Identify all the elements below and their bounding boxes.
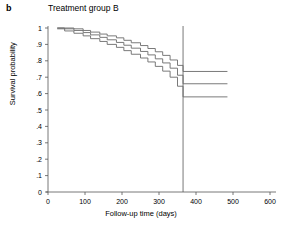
y-tick-label: .6 bbox=[36, 90, 42, 97]
y-tick-label: .4 bbox=[36, 123, 42, 130]
x-tick-label: 200 bbox=[116, 198, 128, 205]
y-tick-label: .3 bbox=[36, 139, 42, 146]
y-tick-label: .2 bbox=[36, 156, 42, 163]
survival-curve-line bbox=[57, 28, 227, 84]
survival-curve-figure: b Treatment group B Survival probability… bbox=[0, 0, 282, 228]
y-tick-label: .1 bbox=[36, 172, 42, 179]
y-tick-label: .9 bbox=[36, 41, 42, 48]
survival-curves bbox=[57, 28, 227, 97]
plot-area: 0.1.2.3.4.5.6.7.8.91 0100200300400500600 bbox=[0, 0, 282, 228]
survival-curve-line bbox=[57, 29, 227, 97]
x-tick-label: 400 bbox=[190, 198, 202, 205]
x-tick-label: 300 bbox=[153, 198, 165, 205]
y-tick-label: .8 bbox=[36, 57, 42, 64]
x-tick-label: 600 bbox=[264, 198, 276, 205]
y-tick-label: .5 bbox=[36, 107, 42, 114]
x-axis-ticks: 0100200300400500600 bbox=[46, 192, 276, 205]
y-tick-label: 1 bbox=[38, 25, 42, 32]
x-tick-label: 500 bbox=[227, 198, 239, 205]
y-tick-label: .7 bbox=[36, 74, 42, 81]
x-tick-label: 100 bbox=[79, 198, 91, 205]
x-tick-label: 0 bbox=[46, 198, 50, 205]
y-axis-ticks: 0.1.2.3.4.5.6.7.8.91 bbox=[36, 25, 48, 196]
y-tick-label: 0 bbox=[38, 189, 42, 196]
